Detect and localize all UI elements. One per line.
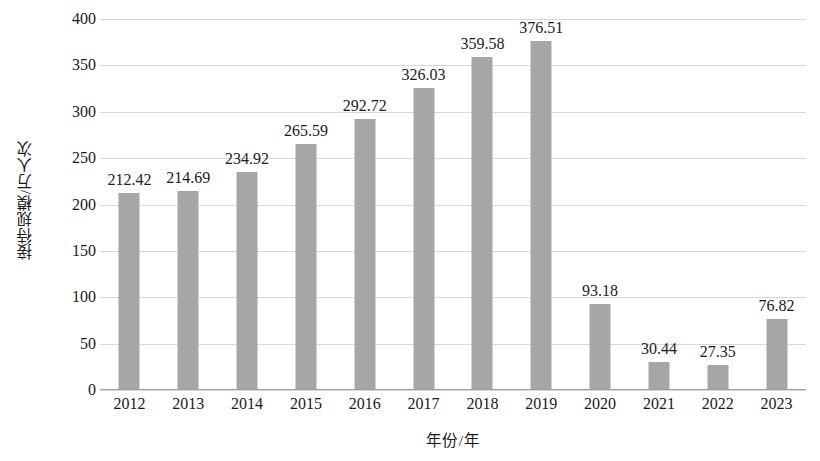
bar[interactable] [295,144,316,390]
x-axis-tick-label: 2020 [584,396,616,412]
x-axis-tick-label: 2019 [525,396,557,412]
bar-group[interactable]: 376.51 [512,19,571,390]
y-axis-tick-label: 350 [72,57,96,73]
x-axis-tick-labels: 2012201320142015201620172018201920202021… [100,396,806,422]
x-axis-tick-label: 2016 [349,396,381,412]
bar[interactable] [119,193,140,390]
bar-group[interactable]: 76.82 [747,19,806,390]
bar[interactable] [648,362,669,390]
bar-value-label: 234.92 [225,151,269,167]
bar-group[interactable]: 234.92 [218,19,277,390]
bar[interactable] [237,172,258,390]
y-axis-tick-labels: 400350300250200150100500 [52,0,96,461]
y-axis-tick-label: 150 [72,243,96,259]
bar[interactable] [766,319,787,390]
bar-group[interactable]: 27.35 [688,19,747,390]
y-axis-tick-label: 0 [88,382,96,398]
gridline [100,390,806,391]
bar[interactable] [472,57,493,391]
x-axis-tick-label: 2021 [643,396,675,412]
bar[interactable] [354,119,375,390]
bar-value-label: 214.69 [166,170,210,186]
bar-group[interactable]: 265.59 [277,19,336,390]
y-axis-tick-label: 200 [72,197,96,213]
plot-area: 212.42214.69234.92265.59292.72326.03359.… [100,19,806,390]
bar[interactable] [413,88,434,390]
bar-group[interactable]: 214.69 [159,19,218,390]
bar-group[interactable]: 30.44 [630,19,689,390]
bar-group[interactable]: 326.03 [394,19,453,390]
x-axis-title: 年份/年 [100,428,806,450]
bar-value-label: 76.82 [759,298,795,314]
x-axis-tick-label: 2012 [113,396,145,412]
x-axis-title-label: 年份/年 [426,432,480,449]
y-axis-tick-label: 100 [72,289,96,305]
x-axis-tick-label: 2018 [466,396,498,412]
bar-value-label: 212.42 [107,172,151,188]
bar-value-label: 30.44 [641,341,677,357]
bars-layer: 212.42214.69234.92265.59292.72326.03359.… [100,19,806,390]
x-axis-tick-label: 2017 [408,396,440,412]
x-axis-tick-label: 2014 [231,396,263,412]
y-axis-title-label: 接待规模/万人次 [15,140,37,260]
bar-group[interactable]: 292.72 [335,19,394,390]
bar[interactable] [590,304,611,390]
bar[interactable] [178,191,199,390]
bar-value-label: 326.03 [402,67,446,83]
bar-chart: 接待规模/万人次 400350300250200150100500 212.42… [0,0,820,461]
bar-value-label: 376.51 [519,20,563,36]
y-axis-tick-label: 400 [72,11,96,27]
y-axis-title: 接待规模/万人次 [8,0,44,400]
bar-group[interactable]: 93.18 [571,19,630,390]
bar-value-label: 27.35 [700,344,736,360]
y-axis-tick-label: 250 [72,150,96,166]
y-axis-tick-label: 50 [80,336,96,352]
bar[interactable] [707,365,728,390]
x-axis-line [100,389,806,390]
bar[interactable] [531,41,552,390]
bar-value-label: 93.18 [582,283,618,299]
bar-value-label: 265.59 [284,123,328,139]
x-axis-tick-label: 2023 [761,396,793,412]
bar-value-label: 359.58 [460,36,504,52]
x-axis-tick-label: 2015 [290,396,322,412]
y-axis-tick-label: 300 [72,104,96,120]
bar-group[interactable]: 359.58 [453,19,512,390]
bar-group[interactable]: 212.42 [100,19,159,390]
bar-value-label: 292.72 [343,98,387,114]
x-axis-tick-label: 2013 [172,396,204,412]
x-axis-tick-label: 2022 [702,396,734,412]
